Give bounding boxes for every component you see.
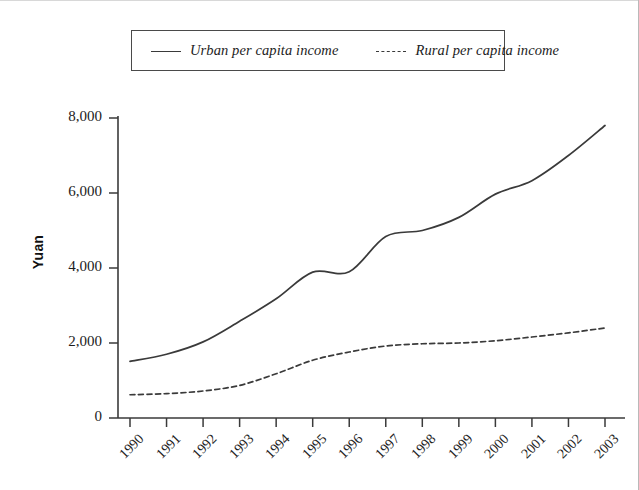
- chart-page: Urban per capita income Rural per capita…: [0, 0, 639, 490]
- axis-lines: [109, 116, 625, 427]
- series-line-rural: [130, 328, 605, 395]
- series-line-urban: [130, 126, 605, 362]
- data-series-group: [130, 126, 605, 395]
- plot-area: Yuan 02,0004,0006,0008,000 1990199119921…: [0, 0, 639, 490]
- chart-canvas: [0, 0, 639, 490]
